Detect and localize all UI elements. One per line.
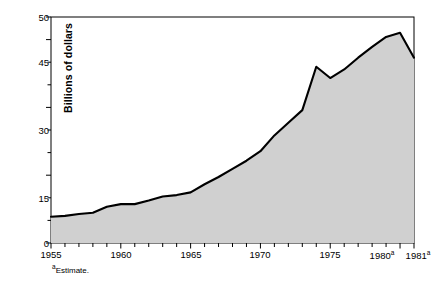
y-axis-ticks (46, 17, 51, 243)
chart-plot-area (0, 0, 442, 289)
chart-figure: Billions of dollars 50 45 30 15 0 1955 1… (0, 0, 442, 289)
area-fill (51, 33, 414, 243)
x-axis-ticks (51, 243, 414, 249)
